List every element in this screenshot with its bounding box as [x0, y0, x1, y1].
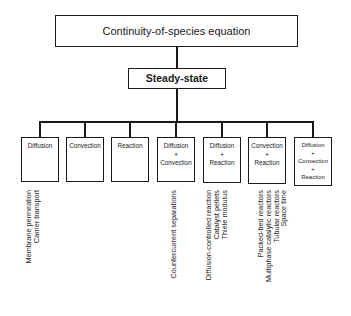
leaf-convection: Convection	[66, 137, 104, 182]
applications-diffusion: Membrane permeation Carrier transport	[25, 190, 41, 310]
leaf-label: +	[158, 151, 194, 160]
leaf-label: +	[204, 151, 240, 160]
applications-convection-reaction: Packed-bed reactors Multiphase catalytic…	[257, 190, 289, 310]
application-label: Space time	[280, 190, 288, 310]
leaf-label: Reaction	[112, 142, 148, 151]
connector-drop-5	[221, 121, 223, 137]
connector-drop-2	[84, 121, 86, 137]
leaf-label: Diffusion	[295, 141, 331, 149]
leaf-label: Diffusion	[204, 142, 240, 151]
application-label: Countercurrent separations	[170, 190, 178, 310]
connector-steady-bus	[176, 89, 178, 122]
leaf-convection-reaction: Convection + Reaction	[248, 137, 286, 184]
connector-drop-4	[175, 121, 177, 137]
application-label: Carrier transport	[33, 190, 41, 310]
applications-diffusion-convection: Countercurrent separations	[170, 190, 178, 310]
leaf-label: +	[249, 151, 285, 160]
leaf-label: +	[295, 149, 331, 157]
connector-drop-1	[39, 121, 41, 137]
leaf-label: Diffusion	[158, 142, 194, 151]
leaf-diffusion: Diffusion	[21, 137, 59, 182]
leaf-label: Reaction	[204, 159, 240, 168]
leaf-label: Convection	[295, 157, 331, 165]
connector-drop-3	[129, 121, 131, 137]
leaf-label: +	[295, 165, 331, 173]
root-node: Continuity-of-species equation	[55, 15, 298, 47]
leaf-label: Diffusion	[22, 142, 58, 151]
leaf-diffusion-convection: Diffusion + Convection	[157, 137, 195, 182]
connector-root-steady	[176, 47, 178, 68]
leaf-diffusion-reaction: Diffusion + Reaction	[203, 137, 241, 183]
leaf-label: Convection	[67, 142, 103, 151]
leaf-diffusion-convection-reaction: Diffusion + Convection + Reaction	[294, 137, 332, 186]
leaf-label: Reaction	[249, 159, 285, 168]
leaf-label: Convection	[249, 142, 285, 151]
application-label: Thiele modulus	[221, 190, 229, 310]
leaf-reaction: Reaction	[111, 137, 149, 182]
leaf-label: Reaction	[295, 173, 331, 181]
connector-drop-7	[312, 121, 314, 137]
leaf-label: Convection	[158, 159, 194, 168]
steady-state-node: Steady-state	[128, 68, 226, 89]
applications-diffusion-reaction: Diffusion-controlled reaction Catalyst p…	[205, 190, 229, 310]
connector-drop-6	[266, 121, 268, 137]
